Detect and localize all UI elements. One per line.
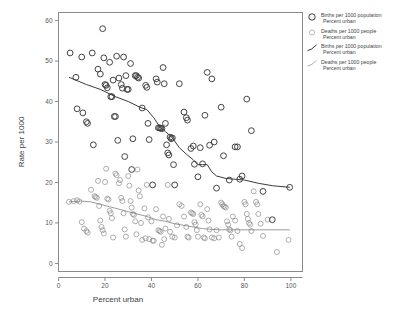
x-tick-label-60: 60 bbox=[194, 282, 202, 289]
data-point bbox=[192, 161, 198, 167]
data-point bbox=[163, 226, 168, 231]
data-point bbox=[195, 234, 200, 239]
data-point bbox=[142, 206, 147, 211]
series-births-points bbox=[67, 26, 292, 223]
data-point bbox=[274, 250, 279, 255]
data-point bbox=[197, 145, 203, 151]
data-point bbox=[204, 69, 210, 75]
data-point bbox=[260, 188, 266, 194]
legend-marker-circle bbox=[309, 14, 315, 20]
data-point bbox=[79, 220, 84, 225]
data-point bbox=[235, 229, 240, 234]
data-point bbox=[199, 212, 204, 217]
data-point bbox=[144, 182, 149, 187]
data-point bbox=[128, 61, 134, 67]
data-point bbox=[211, 139, 217, 145]
data-point bbox=[233, 218, 238, 223]
data-point bbox=[258, 221, 263, 226]
data-point bbox=[229, 234, 234, 239]
data-point bbox=[122, 154, 128, 160]
data-point bbox=[116, 181, 121, 186]
data-point bbox=[163, 120, 169, 126]
legend-marker-curve bbox=[308, 60, 317, 66]
data-point bbox=[128, 199, 133, 204]
x-axis-title: Percent urban bbox=[93, 295, 143, 304]
data-point bbox=[198, 202, 203, 207]
data-point bbox=[221, 153, 227, 159]
data-point bbox=[172, 182, 178, 188]
legend-label-secondary: Percent urban bbox=[323, 49, 356, 55]
x-tick-label-80: 80 bbox=[241, 282, 249, 289]
data-point bbox=[129, 205, 134, 210]
data-point bbox=[214, 228, 219, 233]
data-point bbox=[96, 178, 101, 183]
data-point bbox=[114, 173, 119, 178]
data-point bbox=[104, 166, 109, 171]
data-point bbox=[89, 187, 94, 192]
data-point bbox=[200, 214, 205, 219]
data-point bbox=[240, 246, 245, 251]
legend-label-secondary: Percent urban bbox=[323, 18, 356, 24]
legend-label-secondary: Percent urban bbox=[323, 34, 356, 40]
data-point bbox=[261, 233, 266, 238]
data-point bbox=[136, 188, 141, 193]
data-point bbox=[116, 75, 122, 81]
data-point bbox=[249, 229, 254, 234]
data-point bbox=[224, 219, 229, 224]
data-point bbox=[248, 128, 254, 134]
data-point bbox=[137, 194, 142, 199]
data-point bbox=[181, 214, 186, 219]
data-point bbox=[89, 50, 95, 56]
data-point bbox=[130, 136, 136, 142]
data-point bbox=[244, 212, 249, 217]
legend-marker-circle bbox=[309, 30, 314, 35]
y-tick-label-0: 0 bbox=[49, 260, 53, 267]
fit-curve-dark bbox=[69, 77, 290, 187]
data-point bbox=[101, 55, 107, 61]
data-point bbox=[214, 185, 220, 191]
data-point bbox=[286, 237, 291, 242]
data-point bbox=[202, 112, 208, 118]
data-point bbox=[115, 137, 121, 143]
data-point bbox=[85, 120, 91, 126]
data-point bbox=[107, 59, 113, 65]
data-point bbox=[146, 137, 152, 143]
data-point bbox=[218, 104, 224, 110]
data-point bbox=[134, 232, 139, 237]
data-point bbox=[248, 222, 253, 227]
data-point bbox=[111, 235, 116, 240]
data-point bbox=[97, 71, 103, 77]
y-tick-label-30: 30 bbox=[45, 138, 53, 145]
data-point bbox=[145, 120, 151, 126]
data-point bbox=[101, 231, 106, 236]
data-point bbox=[114, 53, 120, 59]
x-tick-label-100: 100 bbox=[285, 282, 296, 289]
data-point bbox=[120, 199, 125, 204]
data-point bbox=[168, 229, 173, 234]
data-point bbox=[90, 142, 96, 148]
data-point bbox=[161, 214, 166, 219]
data-point bbox=[171, 162, 177, 168]
data-point bbox=[154, 207, 159, 212]
data-point bbox=[119, 195, 124, 200]
data-point bbox=[166, 152, 172, 158]
scatter-plot-figure: 0102030405060 020406080100 Rate per 1000… bbox=[0, 0, 399, 312]
y-tick-label-50: 50 bbox=[45, 57, 53, 64]
data-point bbox=[165, 182, 170, 187]
data-point bbox=[129, 167, 135, 173]
data-point bbox=[151, 238, 156, 243]
legend-label-secondary: Percent urban bbox=[323, 65, 356, 71]
data-point bbox=[205, 207, 210, 212]
data-point bbox=[159, 242, 164, 247]
data-point bbox=[99, 224, 104, 229]
x-axis: 020406080100 bbox=[57, 278, 303, 290]
data-point bbox=[135, 167, 140, 172]
data-point bbox=[121, 54, 127, 60]
data-point bbox=[85, 230, 90, 235]
data-point bbox=[150, 182, 156, 188]
data-point bbox=[67, 50, 73, 56]
y-tick-label-10: 10 bbox=[45, 219, 53, 226]
data-point bbox=[121, 211, 126, 216]
data-point bbox=[194, 228, 199, 233]
data-point bbox=[256, 212, 261, 217]
